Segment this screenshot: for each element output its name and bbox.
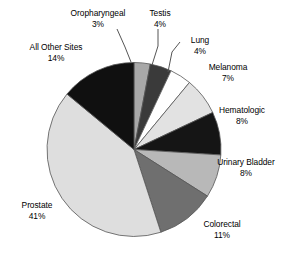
pie-label-hematologic-name: Hematologic: [209, 105, 275, 116]
pie-label-prostate-value: 41%: [11, 211, 63, 222]
pie-label-prostate: Prostate 41%: [11, 200, 63, 221]
pie-label-hematologic-value: 8%: [209, 116, 275, 127]
pie-slice-group: [47, 62, 221, 236]
pie-label-lung-name: Lung: [182, 35, 218, 46]
pie-label-colorectal-value: 11%: [193, 230, 251, 241]
pie-label-colorectal-name: Colorectal: [193, 219, 251, 230]
pie-label-all-other-sites-value: 14%: [18, 53, 94, 64]
leader-line-lung: [168, 42, 180, 72]
pie-label-testis: Testis 4%: [141, 8, 179, 29]
pie-label-urinary-bladder-name: Urinary Bladder: [207, 157, 285, 168]
pie-chart: Oropharyngeal 3% Testis 4% Lung 4% Melan…: [0, 0, 300, 263]
pie-label-all-other-sites: All Other Sites 14%: [18, 42, 94, 63]
pie-label-all-other-sites-name: All Other Sites: [18, 42, 94, 53]
pie-label-melanoma-value: 7%: [199, 73, 257, 84]
pie-chart-canvas: [0, 0, 300, 263]
pie-label-lung-value: 4%: [182, 46, 218, 57]
pie-label-urinary-bladder: Urinary Bladder 8%: [207, 157, 285, 178]
pie-label-testis-value: 4%: [141, 19, 179, 30]
pie-label-oropharyngeal-name: Oropharyngeal: [62, 8, 134, 19]
pie-label-oropharyngeal: Oropharyngeal 3%: [62, 8, 134, 29]
pie-label-testis-name: Testis: [141, 8, 179, 19]
pie-label-urinary-bladder-value: 8%: [207, 168, 285, 179]
pie-label-melanoma: Melanoma 7%: [199, 62, 257, 83]
pie-label-lung: Lung 4%: [182, 35, 218, 56]
leader-line-testis: [152, 29, 158, 65]
leader-line-oropharyngeal: [117, 29, 131, 62]
pie-label-colorectal: Colorectal 11%: [193, 219, 251, 240]
pie-label-melanoma-name: Melanoma: [199, 62, 257, 73]
pie-label-prostate-name: Prostate: [11, 200, 63, 211]
pie-label-hematologic: Hematologic 8%: [209, 105, 275, 126]
pie-label-oropharyngeal-value: 3%: [62, 19, 134, 30]
